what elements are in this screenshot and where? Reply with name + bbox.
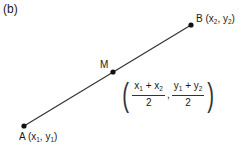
point-a-label: A (x1, y1) (19, 131, 57, 143)
fraction-y-numerator: y1 + y2 (172, 79, 205, 96)
plus-sign: + (185, 80, 191, 91)
point-b-x-sub: 2 (214, 18, 218, 25)
y2-sub: 2 (199, 85, 203, 92)
x2-sub: 2 (159, 85, 163, 92)
comma: , (167, 89, 170, 100)
fraction-x: x1 + x2 2 (132, 79, 165, 110)
point-m-label: M (100, 59, 108, 70)
point-a (21, 123, 26, 128)
fraction-y-denominator: 2 (185, 96, 191, 110)
plus-sign: + (146, 80, 152, 91)
point-a-name: A (19, 131, 25, 142)
point-a-x-sub: 1 (36, 136, 40, 143)
close-paren: ) (208, 77, 215, 111)
point-b-label: B (x2, y2) (196, 13, 235, 25)
point-m (110, 69, 115, 74)
open-paren: ( (122, 77, 129, 111)
fraction-y: y1 + y2 2 (172, 79, 205, 110)
fraction-x-numerator: x1 + x2 (132, 79, 165, 96)
point-b-y-sub: 2 (228, 18, 232, 25)
fraction-x-denominator: 2 (146, 96, 152, 110)
point-b (188, 22, 193, 27)
point-a-y-sub: 1 (50, 136, 54, 143)
y1-sub: 1 (179, 85, 183, 92)
x1-sub: 1 (139, 85, 143, 92)
midpoint-formula: ( x1 + x2 2 , y1 + y2 2 ) (120, 77, 217, 111)
point-b-name: B (196, 13, 203, 24)
